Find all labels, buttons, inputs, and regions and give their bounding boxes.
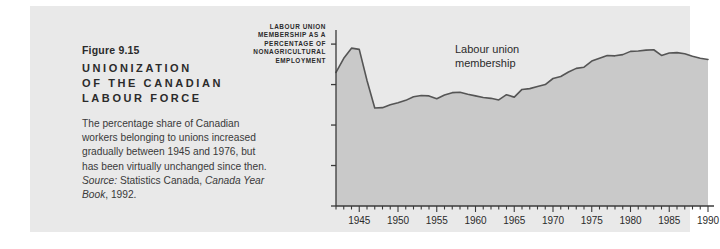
figure-body-part-3: , 1992. [105, 189, 136, 200]
unionization-area-chart: 0102030401945195019551960196519701975198… [330, 20, 720, 235]
series-annotation-line-1: Labour union [455, 42, 519, 56]
x-tick-label: 1950 [387, 215, 410, 226]
x-tick-label: 1975 [581, 215, 604, 226]
x-tick-label: 1965 [503, 215, 526, 226]
figure-title-line-2: OF THE CANADIAN [82, 76, 268, 91]
y-axis-caption: LABOUR UNION MEMBERSHIP AS A PERCENTAGE … [244, 23, 326, 65]
x-tick-label: 1960 [464, 215, 487, 226]
y-axis-caption-line-4: NONAGRICULTURAL [244, 48, 326, 56]
x-tick-label: 1985 [658, 215, 681, 226]
y-axis-caption-line-5: EMPLOYMENT [244, 57, 326, 65]
series-annotation: Labour union membership [455, 42, 519, 70]
figure-title: UNIONIZATION OF THE CANADIAN LABOUR FORC… [82, 61, 268, 106]
x-tick-label: 1955 [426, 215, 449, 226]
x-tick-label: 1980 [619, 215, 642, 226]
source-label: Source: [82, 175, 117, 186]
x-tick-label: 1970 [542, 215, 565, 226]
figure-panel: Figure 9.15 UNIONIZATION OF THE CANADIAN… [30, 6, 690, 232]
figure-caption: Figure 9.15 UNIONIZATION OF THE CANADIAN… [82, 44, 268, 202]
y-axis-caption-line-1: LABOUR UNION [244, 23, 326, 31]
series-annotation-line-2: membership [455, 56, 519, 70]
figure-body-part-2: Statistics Canada, [117, 175, 205, 186]
x-tick-label: 1990 [697, 215, 720, 226]
y-axis-caption-line-2: MEMBERSHIP AS A [244, 31, 326, 39]
figure-title-line-3: LABOUR FORCE [82, 91, 268, 106]
figure-title-line-1: UNIONIZATION [82, 61, 268, 76]
x-tick-label: 1945 [348, 215, 371, 226]
figure-body-text: The percentage share of Canadian workers… [82, 117, 268, 202]
y-axis-caption-line-3: PERCENTAGE OF [244, 40, 326, 48]
chart-plot-area: 0102030401945195019551960196519701975198… [330, 20, 720, 235]
figure-body-part-1: The percentage share of Canadian workers… [82, 118, 267, 172]
figure-number: Figure 9.15 [82, 44, 268, 56]
